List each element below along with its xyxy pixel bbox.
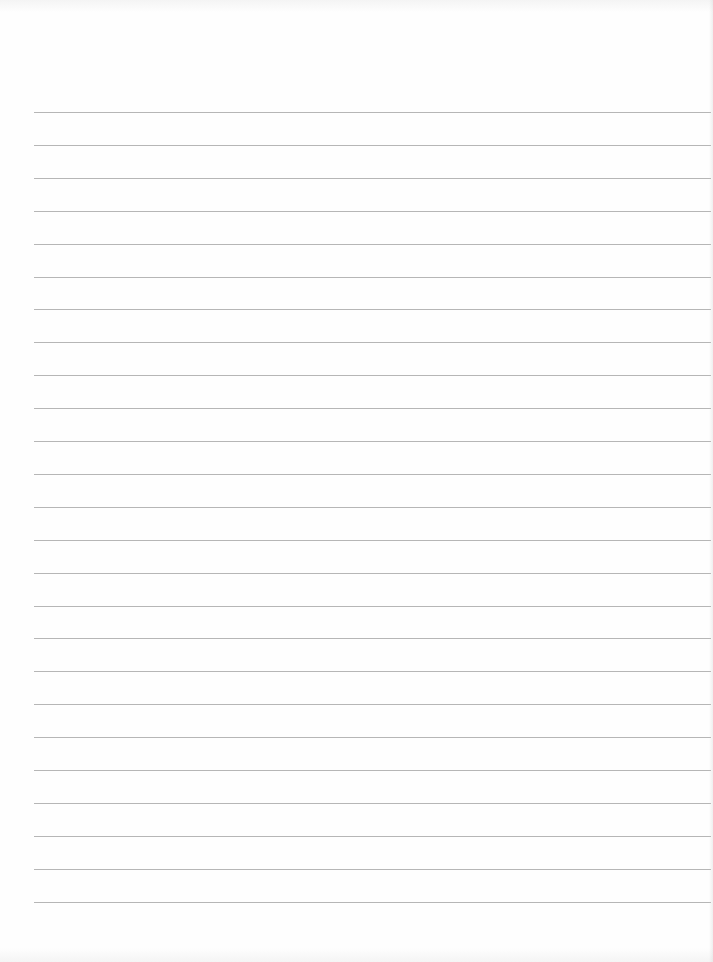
right-edge-shadow bbox=[709, 0, 713, 962]
ruled-line bbox=[34, 902, 711, 903]
ruled-line bbox=[34, 803, 711, 804]
ruled-line bbox=[34, 737, 711, 738]
ruled-line bbox=[34, 507, 711, 508]
ruled-line bbox=[34, 277, 711, 278]
ruled-line bbox=[34, 704, 711, 705]
ruled-line bbox=[34, 671, 711, 672]
ruled-line bbox=[34, 573, 711, 574]
ruled-lines bbox=[34, 0, 711, 962]
ruled-line bbox=[34, 836, 711, 837]
ruled-line bbox=[34, 145, 711, 146]
ruled-line bbox=[34, 112, 711, 113]
ruled-line bbox=[34, 540, 711, 541]
ruled-line bbox=[34, 408, 711, 409]
ruled-line bbox=[34, 869, 711, 870]
ruled-line bbox=[34, 244, 711, 245]
ruled-line bbox=[34, 178, 711, 179]
ruled-line bbox=[34, 211, 711, 212]
bottom-edge-shadow bbox=[0, 948, 713, 962]
lined-paper-page bbox=[0, 0, 713, 962]
ruled-line bbox=[34, 375, 711, 376]
ruled-line bbox=[34, 441, 711, 442]
ruled-line bbox=[34, 606, 711, 607]
ruled-line bbox=[34, 309, 711, 310]
ruled-line bbox=[34, 474, 711, 475]
ruled-line bbox=[34, 638, 711, 639]
ruled-line bbox=[34, 770, 711, 771]
ruled-line bbox=[34, 342, 711, 343]
